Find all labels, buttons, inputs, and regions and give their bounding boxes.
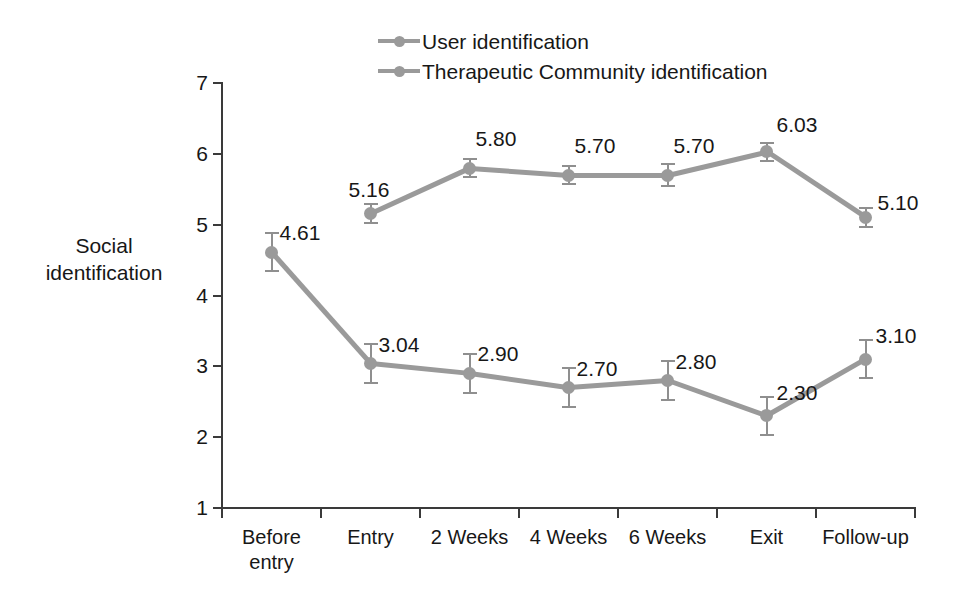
- x-axis-tick: [716, 509, 718, 518]
- y-axis-tick-label: 5: [182, 214, 208, 235]
- error-bar-cap: [760, 396, 774, 398]
- line-segment: [569, 173, 668, 178]
- x-axis-category-label: Follow-up: [816, 525, 915, 550]
- line-segment: [370, 361, 469, 376]
- error-bar-cap: [661, 185, 675, 187]
- data-point-value-label: 2.80: [676, 351, 717, 372]
- data-point-marker[interactable]: [364, 357, 377, 370]
- error-bar-cap: [562, 183, 576, 185]
- error-bar-cap: [364, 343, 378, 345]
- data-point-marker[interactable]: [562, 169, 575, 182]
- x-axis-category-label-line: Follow-up: [816, 525, 915, 550]
- data-point-value-label: 2.70: [577, 358, 618, 379]
- x-axis-tick: [815, 509, 817, 518]
- y-axis-tick: [213, 224, 221, 226]
- y-axis-tick: [213, 153, 221, 155]
- error-bar-cap: [364, 222, 378, 224]
- error-bar-cap: [364, 382, 378, 384]
- y-axis-tick: [213, 82, 221, 84]
- y-axis-tick: [213, 507, 221, 509]
- line-segment: [765, 150, 867, 220]
- x-axis-tick: [419, 509, 421, 518]
- line-segment: [469, 166, 568, 178]
- line-segment: [568, 378, 667, 390]
- error-bar-cap: [859, 226, 873, 228]
- x-axis-category-label: 6 Weeks: [618, 525, 717, 550]
- x-axis-tick: [320, 509, 322, 518]
- x-axis-tick: [518, 509, 520, 518]
- y-axis-tick-label: 2: [182, 426, 208, 447]
- line-segment: [469, 371, 569, 390]
- line-segment: [270, 251, 373, 366]
- error-bar-cap: [859, 339, 873, 341]
- error-bar-cap: [562, 367, 576, 369]
- data-point-value-label: 3.04: [379, 334, 420, 355]
- data-point-marker[interactable]: [463, 367, 476, 380]
- error-bar-cap: [859, 377, 873, 379]
- y-axis-line: [221, 82, 223, 509]
- x-axis-category-label-line: Exit: [717, 525, 816, 550]
- y-axis-tick: [213, 295, 221, 297]
- error-bar-cap: [463, 353, 477, 355]
- data-point-marker[interactable]: [661, 374, 674, 387]
- line-segment: [667, 378, 768, 418]
- data-point-value-label: 5.70: [674, 135, 715, 156]
- data-point-marker[interactable]: [760, 409, 773, 422]
- x-axis-category-label-line: 4 Weeks: [519, 525, 618, 550]
- data-point-value-label: 2.90: [478, 343, 519, 364]
- error-bar-cap: [760, 142, 774, 144]
- x-axis-tick: [617, 509, 619, 518]
- error-bar-cap: [562, 165, 576, 167]
- data-point-value-label: 4.61: [280, 222, 321, 243]
- data-point-marker[interactable]: [364, 207, 377, 220]
- x-axis-category-label: Entry: [321, 525, 420, 550]
- x-axis-category-label-line: entry: [222, 550, 321, 575]
- error-bar-cap: [661, 399, 675, 401]
- data-point-value-label: 2.30: [777, 382, 818, 403]
- data-point-marker[interactable]: [265, 246, 278, 259]
- data-point-marker[interactable]: [859, 353, 872, 366]
- x-axis-line: [221, 507, 916, 509]
- x-axis-tick: [221, 509, 223, 518]
- error-bar-cap: [760, 434, 774, 436]
- x-axis-category-label-line: 2 Weeks: [420, 525, 519, 550]
- y-axis-tick-label: 1: [182, 497, 208, 518]
- y-axis-tick: [213, 365, 221, 367]
- data-point-value-label: 5.10: [878, 192, 919, 213]
- error-bar-cap: [265, 232, 279, 234]
- error-bar-cap: [661, 360, 675, 362]
- x-axis-category-label: Exit: [717, 525, 816, 550]
- y-axis-tick-label: 4: [182, 285, 208, 306]
- x-axis-category-label-line: Entry: [321, 525, 420, 550]
- data-point-value-label: 3.10: [876, 325, 917, 346]
- error-bar-cap: [859, 207, 873, 209]
- data-point-marker[interactable]: [661, 169, 674, 182]
- data-point-value-label: 5.80: [476, 128, 517, 149]
- y-axis-tick: [213, 436, 221, 438]
- x-axis-category-label-line: Before: [222, 525, 321, 550]
- y-axis-tick-label: 7: [182, 72, 208, 93]
- data-point-marker[interactable]: [562, 381, 575, 394]
- error-bar-cap: [562, 406, 576, 408]
- error-bar-cap: [364, 203, 378, 205]
- error-bar-cap: [463, 392, 477, 394]
- data-point-marker[interactable]: [463, 162, 476, 175]
- data-point-value-label: 6.03: [777, 114, 818, 135]
- error-bar-cap: [463, 158, 477, 160]
- y-axis-tick-label: 3: [182, 355, 208, 376]
- x-axis-tick: [914, 509, 916, 518]
- error-bar-cap: [760, 160, 774, 162]
- x-axis-category-label: 2 Weeks: [420, 525, 519, 550]
- chart-figure: User identification Therapeutic Communit…: [0, 0, 964, 608]
- data-point-value-label: 5.16: [349, 179, 390, 200]
- x-axis-category-label: Beforeentry: [222, 525, 321, 575]
- plot-area: 1234567BeforeentryEntry2 Weeks4 Weeks6 W…: [0, 0, 964, 608]
- x-axis-category-label-line: 6 Weeks: [618, 525, 717, 550]
- error-bar-cap: [661, 163, 675, 165]
- y-axis-tick-label: 6: [182, 143, 208, 164]
- data-point-value-label: 5.70: [575, 135, 616, 156]
- x-axis-category-label: 4 Weeks: [519, 525, 618, 550]
- error-bar-cap: [265, 270, 279, 272]
- data-point-marker[interactable]: [859, 211, 872, 224]
- error-bar-cap: [463, 176, 477, 178]
